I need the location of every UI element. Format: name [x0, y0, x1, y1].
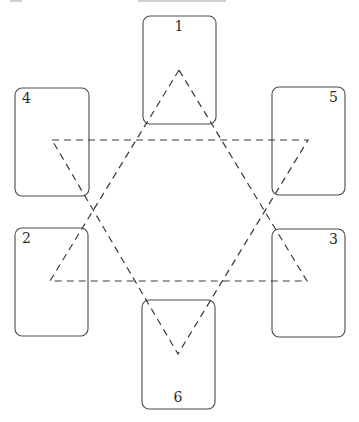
card-label-1: 1 — [175, 18, 184, 34]
card-label-3: 3 — [329, 231, 338, 247]
card-label-6: 6 — [174, 389, 183, 405]
card-label-4: 4 — [22, 90, 31, 106]
six-card-hexagram-diagram: 145236 — [0, 0, 359, 422]
card-label-5: 5 — [329, 89, 338, 105]
card-label-2: 2 — [22, 230, 31, 246]
card-positions — [15, 16, 345, 409]
